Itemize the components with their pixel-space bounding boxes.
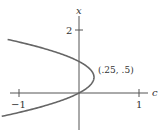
tick-label-neg1: −1 xyxy=(11,99,26,110)
parabola-plot: x c 2 −1 1 (.25, .5) xyxy=(0,0,168,135)
vertex-annotation: (.25, .5) xyxy=(98,65,134,75)
tick-label-y2: 2 xyxy=(66,25,72,36)
c-axis-label: c xyxy=(152,87,158,98)
tick-label-1: 1 xyxy=(136,99,142,110)
x-axis-label: x xyxy=(76,5,82,16)
